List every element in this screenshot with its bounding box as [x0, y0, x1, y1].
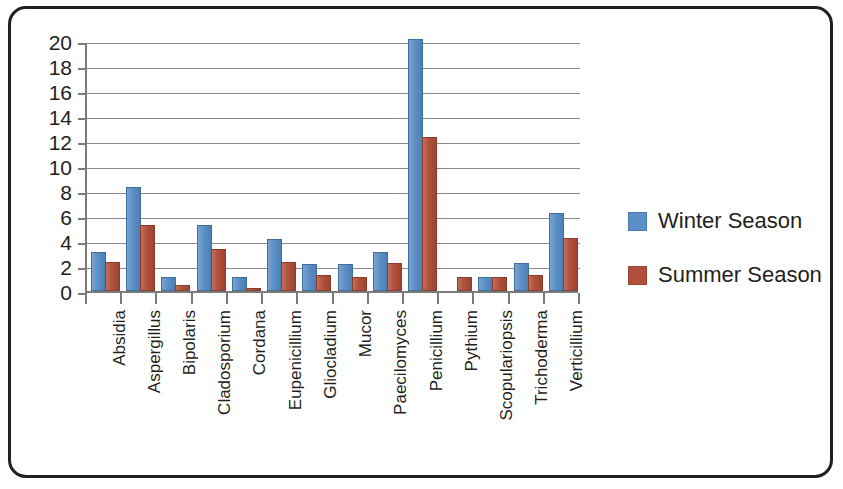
x-axis-tick-mark: [191, 293, 193, 304]
legend-label-summer: Summer Season: [658, 262, 822, 288]
bar-group: [231, 41, 266, 291]
y-axis-tick-label: 10: [32, 157, 72, 178]
y-axis-tick-label: 18: [32, 57, 72, 78]
x-axis-label: Aspergillus: [145, 310, 165, 393]
x-axis-tick-mark: [296, 293, 298, 304]
bar-group: [266, 41, 301, 291]
y-axis-tick-mark: [78, 93, 87, 95]
bar-summer[interactable]: [175, 285, 190, 291]
bar-group: [160, 41, 195, 291]
bar-group: [548, 41, 583, 291]
bar-group: [196, 41, 231, 291]
grouped-bar-chart: 02468101214161820 Winter Season Summer S…: [0, 0, 843, 489]
bar-group: [477, 41, 512, 291]
bar-group: [125, 41, 160, 291]
bar-summer[interactable]: [492, 277, 507, 292]
bar-group: [513, 41, 548, 291]
y-axis-tick-label: 12: [32, 132, 72, 153]
x-axis-label: Absidia: [110, 310, 130, 366]
x-axis-tick-mark: [402, 293, 404, 304]
x-axis-label: Cladosporium: [215, 310, 235, 415]
bar-winter[interactable]: [408, 39, 423, 291]
x-axis-label: Bipolaris: [180, 310, 200, 375]
y-axis-tick-mark: [78, 43, 87, 45]
legend-swatch-summer-icon: [628, 266, 647, 285]
y-axis-tick-mark: [78, 68, 87, 70]
plot-area: [85, 43, 578, 293]
bar-summer[interactable]: [316, 275, 331, 291]
y-axis-tick-label: 4: [32, 232, 72, 253]
bar-group: [301, 41, 336, 291]
y-axis-tick-mark: [78, 143, 87, 145]
x-axis-label: Gliocladium: [321, 310, 341, 399]
bar-group: [407, 41, 442, 291]
x-axis-tick-mark: [578, 293, 580, 304]
bar-group: [90, 41, 125, 291]
bar-summer[interactable]: [140, 225, 155, 291]
y-axis-tick-mark: [78, 118, 87, 120]
bar-summer[interactable]: [457, 277, 472, 292]
x-axis-tick-mark: [226, 293, 228, 304]
y-axis-tick-mark: [78, 168, 87, 170]
bar-group: [372, 41, 407, 291]
bar-winter[interactable]: [514, 263, 529, 291]
bar-winter[interactable]: [338, 264, 353, 291]
x-axis-tick-mark: [85, 293, 87, 304]
x-axis-label: Verticillium: [567, 310, 587, 391]
y-axis-tick-label: 14: [32, 107, 72, 128]
legend-swatch-winter-icon: [628, 212, 647, 231]
bar-summer[interactable]: [528, 275, 543, 291]
y-axis: 02468101214161820: [28, 0, 72, 489]
x-axis-tick-mark: [261, 293, 263, 304]
bar-summer[interactable]: [387, 263, 402, 291]
bar-winter[interactable]: [232, 277, 247, 292]
bar-winter[interactable]: [549, 213, 564, 291]
bar-winter[interactable]: [267, 239, 282, 291]
y-axis-tick-label: 8: [32, 182, 72, 203]
bar-winter[interactable]: [161, 277, 176, 292]
x-axis-tick-mark: [437, 293, 439, 304]
legend-item-winter[interactable]: Winter Season: [628, 208, 822, 234]
x-axis-tick-mark: [472, 293, 474, 304]
chart-legend: Winter Season Summer Season: [628, 208, 822, 316]
legend-label-winter: Winter Season: [658, 208, 802, 234]
bar-winter[interactable]: [91, 252, 106, 292]
y-axis-tick-label: 20: [32, 32, 72, 53]
x-axis-tick-mark: [543, 293, 545, 304]
y-axis-tick-label: 16: [32, 82, 72, 103]
bar-group: [442, 41, 477, 291]
x-axis-label: Mucor: [356, 310, 376, 357]
bar-summer[interactable]: [563, 238, 578, 291]
bar-summer[interactable]: [422, 137, 437, 292]
y-axis-tick-mark: [78, 243, 87, 245]
x-axis-label: Scopulariopsis: [497, 310, 517, 421]
x-axis-label: Eupenicillium: [286, 310, 306, 410]
bar-summer[interactable]: [246, 288, 261, 291]
bar-winter[interactable]: [478, 277, 493, 292]
bar-summer[interactable]: [281, 262, 296, 292]
bar-summer[interactable]: [352, 277, 367, 292]
y-axis-tick-mark: [78, 268, 87, 270]
bar-summer[interactable]: [105, 262, 120, 292]
x-axis-tick-mark: [120, 293, 122, 304]
x-axis-tick-mark: [508, 293, 510, 304]
x-axis-label: Pythium: [462, 310, 482, 371]
y-axis-tick-label: 6: [32, 207, 72, 228]
y-axis-tick-mark: [78, 193, 87, 195]
x-axis-label: Penicillium: [427, 310, 447, 391]
bar-winter[interactable]: [302, 264, 317, 291]
bar-winter[interactable]: [126, 187, 141, 292]
bar-group: [337, 41, 372, 291]
x-axis-tick-mark: [332, 293, 334, 304]
x-axis-tick-mark: [155, 293, 157, 304]
legend-item-summer[interactable]: Summer Season: [628, 262, 822, 288]
bar-winter[interactable]: [373, 252, 388, 292]
x-axis-tick-mark: [367, 293, 369, 304]
bar-summer[interactable]: [211, 249, 226, 291]
y-axis-tick-mark: [78, 218, 87, 220]
y-axis-tick-label: 0: [32, 282, 72, 303]
x-axis-label: Trichoderma: [532, 310, 552, 405]
bar-winter[interactable]: [197, 225, 212, 291]
x-axis-label: Paecilomyces: [391, 310, 411, 415]
x-axis-label: Cordana: [250, 310, 270, 375]
